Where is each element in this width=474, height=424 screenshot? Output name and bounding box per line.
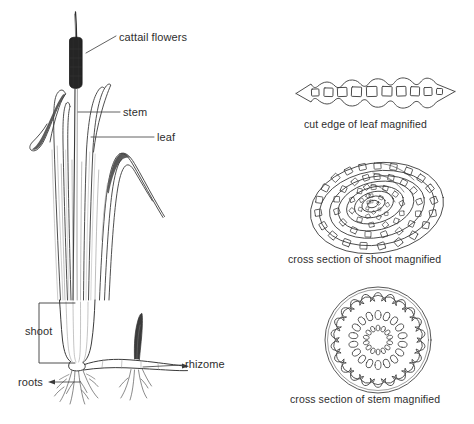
stem-middle-bundles [348, 311, 407, 370]
leaf-right-drooping [100, 153, 165, 300]
plant-illustration [30, 12, 455, 404]
stem-cross-section-detail [325, 287, 431, 393]
label-roots: roots [18, 376, 43, 388]
label-rhizome: rhizome [185, 358, 225, 370]
caption-shoot-section: cross section of shoot magnified [288, 253, 441, 265]
leader-rhizome [143, 365, 182, 367]
shoot-base [60, 300, 96, 371]
leaf-cross-section-detail [296, 78, 455, 108]
shoot-cross-section-detail [304, 153, 450, 263]
leaf-left-arching [30, 90, 66, 300]
label-cattail-flowers: cattail flowers [119, 31, 187, 43]
cattail-flower-spike [70, 12, 83, 88]
stem-inner-bundles [363, 325, 393, 355]
label-leaf: leaf [157, 131, 175, 143]
arrow-roots [48, 380, 55, 385]
cattail-anatomy-figure: cattail flowers stem leaf shoot roots rh… [0, 0, 474, 424]
caption-stem-section: cross section of stem magnified [290, 393, 440, 405]
plant-stem [73, 88, 77, 300]
stem-outer-bundles [330, 293, 425, 387]
rhizome [84, 313, 188, 370]
label-stem: stem [123, 106, 147, 118]
label-shoot: shoot [25, 325, 52, 337]
caption-leaf-section: cut edge of leaf magnified [304, 118, 427, 130]
figure-artwork [0, 0, 474, 424]
leader-cattail-flowers [86, 36, 116, 53]
roots [55, 370, 152, 405]
